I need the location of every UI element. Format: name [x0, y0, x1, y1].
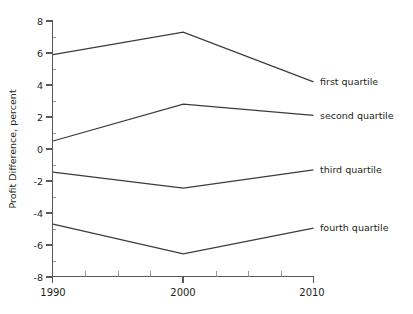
x-tick-label-1990: 1990	[40, 287, 65, 298]
series-label-second-quartile: second quartile	[320, 110, 394, 121]
y-tick-label-neg6: -6	[34, 240, 43, 251]
series-line-first-quartile	[53, 32, 314, 82]
series-line-third-quartile	[53, 170, 314, 188]
y-tick-label-neg4: -4	[34, 208, 43, 219]
y-tick-label-4: 4	[37, 80, 43, 91]
line-chart: 8 6 4 2 0 -2 -4 -6 -8 1990 2000 2010 Pro…	[0, 0, 413, 314]
series-line-fourth-quartile	[53, 224, 314, 254]
x-tick-label-2000: 2000	[170, 287, 195, 298]
y-tick-label-0: 0	[37, 144, 43, 155]
series-label-first-quartile: first quartile	[320, 76, 378, 87]
series-line-second-quartile	[53, 104, 314, 141]
series-label-third-quartile: third quartile	[320, 164, 382, 175]
x-tick-label-2010: 2010	[299, 287, 324, 298]
y-tick-label-neg2: -2	[34, 176, 43, 187]
series-label-fourth-quartile: fourth quartile	[320, 222, 389, 233]
y-axis-ticks	[46, 21, 56, 277]
y-axis-title: Profit Difference, percent	[7, 89, 18, 208]
y-tick-label-6: 6	[37, 48, 43, 59]
y-tick-label-neg8: -8	[34, 272, 43, 283]
y-tick-label-2: 2	[37, 112, 43, 123]
y-tick-label-8: 8	[37, 16, 43, 27]
chart-container: 8 6 4 2 0 -2 -4 -6 -8 1990 2000 2010 Pro…	[0, 0, 413, 314]
